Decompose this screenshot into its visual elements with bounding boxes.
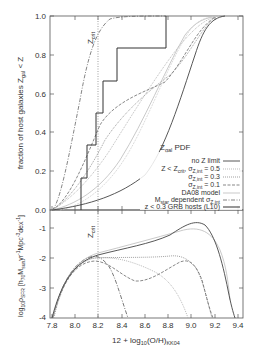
figure: 1.0 0.8 0.6 0.4 0.2 0.0 -1 -2 -3 -4 7.8 … — [0, 0, 258, 351]
legend-label-da08: DA08 model — [181, 189, 220, 196]
tick-label: 8.4 — [116, 321, 128, 330]
legend: no Z limit Z < Zcrit, σZ,int = 0.5 σZ,in… — [140, 152, 242, 211]
x-axis-label: 12 + log10(O/H)KK04 — [112, 336, 180, 346]
tick-label: -2 — [39, 254, 47, 263]
top-y-axis-label: fraction of host galaxies Zgal < Z — [16, 57, 26, 170]
bottom-curves — [52, 223, 235, 318]
tick-label: 8.0 — [69, 321, 81, 330]
bottom-y-tick-labels: -1 -2 -3 -4 — [39, 224, 47, 322]
bottom-curve-sigma-0.1 — [53, 261, 213, 318]
top-y-ticks — [50, 16, 243, 171]
bottom-y-axis-label: log10ρSFR [h70Msunyr-1Mpc-3dex-1] — [15, 215, 26, 317]
tick-label: 0.6 — [35, 90, 47, 99]
bottom-y-ticks — [50, 228, 243, 288]
tick-label: 9.0 — [185, 321, 197, 330]
tick-label: 0.8 — [35, 51, 47, 60]
bottom-curve-sigma-0.5 — [54, 258, 188, 318]
tick-label: 8.2 — [92, 321, 104, 330]
tick-label: 0.4 — [35, 128, 47, 137]
tick-label: -4 — [39, 313, 47, 322]
legend-label-grb-hosts: z < 0.3 GRB hosts (L10) — [145, 203, 220, 211]
legend-label-no-z-limit: no Z limit — [192, 157, 220, 164]
tick-label: 9.4 — [232, 321, 244, 330]
zcrit-label-bottom: Zcrit — [86, 225, 96, 238]
tick-label: 1.0 — [35, 12, 47, 21]
tick-label: 9.2 — [209, 321, 221, 330]
tick-label: 8.6 — [139, 321, 151, 330]
bottom-curve-da08 — [53, 229, 230, 318]
x-tick-labels: 7.8 8.0 8.2 8.4 8.6 8.8 9.0 9.2 9.4 — [46, 321, 244, 330]
tick-label: 0.0 — [35, 206, 47, 215]
top-y-tick-labels: 1.0 0.8 0.6 0.4 0.2 0.0 — [35, 12, 47, 215]
bottom-curve-no-z-limit — [52, 223, 235, 318]
zgal-pdf-label: Zgal PDF — [160, 143, 191, 153]
bottom-curve-mstar — [53, 256, 128, 318]
tick-label: 7.8 — [46, 321, 58, 330]
tick-label: 0.2 — [35, 167, 47, 176]
tick-label: 8.8 — [162, 321, 174, 330]
tick-label: -3 — [39, 284, 47, 293]
tick-label: -1 — [39, 224, 47, 233]
